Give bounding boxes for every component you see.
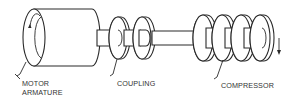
motor-label-line2: ARMATURE [22,88,63,97]
coupling-label: COUPLING [117,79,156,88]
motor-label-line1: MOTOR [22,79,49,88]
shaft-assembly-diagram: MOTOR ARMATURE COUPLING COMPRESSOR [0,0,291,98]
compressor-label: COMPRESSOR [221,81,274,90]
coupling [109,17,155,59]
rotation-arrow-right-icon [277,38,281,55]
motor-armature [23,9,100,66]
compressor [193,15,274,61]
